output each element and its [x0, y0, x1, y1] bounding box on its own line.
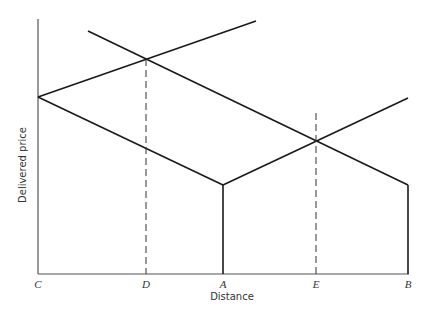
label-e: E	[312, 278, 320, 290]
label-d: D	[141, 278, 150, 290]
x-axis-label: Distance	[210, 291, 254, 302]
delivered-price-diagram: C D A E B Distance Delivered price	[0, 0, 429, 314]
diagram-svg: C D A E B Distance Delivered price	[0, 0, 429, 314]
y-axis-label: Delivered price	[17, 127, 28, 203]
label-a: A	[219, 278, 227, 290]
label-c: C	[34, 278, 42, 290]
price-line-b-falling	[88, 31, 408, 185]
label-b: B	[405, 278, 412, 290]
price-line-c-falling	[38, 97, 223, 185]
